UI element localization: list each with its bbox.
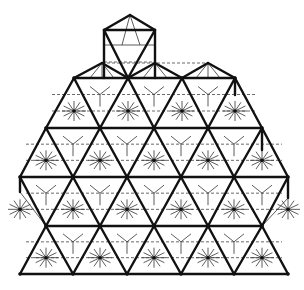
- lattice-node: [98, 224, 102, 228]
- lattice-node: [71, 175, 75, 179]
- edge: [117, 136, 127, 144]
- edge: [20, 177, 46, 226]
- edge: [46, 177, 73, 226]
- edge: [234, 177, 262, 226]
- lattice-node: [125, 175, 129, 179]
- edge: [100, 226, 127, 274]
- lattice-node: [125, 208, 129, 212]
- edge: [208, 177, 234, 226]
- edge: [144, 185, 154, 193]
- lattice-node: [125, 272, 129, 276]
- edge: [208, 128, 234, 177]
- edge: [46, 226, 73, 274]
- edge: [181, 226, 208, 274]
- lattice-node: [206, 224, 210, 228]
- edge: [154, 78, 182, 128]
- edge: [100, 185, 110, 193]
- edge: [234, 128, 262, 177]
- edge: [154, 87, 164, 95]
- edge: [74, 63, 102, 78]
- edge: [262, 185, 272, 193]
- edge: [262, 128, 288, 177]
- edge: [73, 177, 100, 226]
- edge: [198, 87, 208, 95]
- lattice-node: [18, 175, 22, 179]
- edge: [208, 87, 218, 95]
- lattice-node: [286, 175, 290, 179]
- lattice-node: [44, 126, 48, 130]
- edge: [127, 136, 137, 144]
- edge: [224, 234, 234, 242]
- edge: [208, 78, 235, 128]
- lattice-node: [18, 272, 22, 276]
- polyhedral-lattice-figure: [0, 0, 304, 290]
- edge: [100, 87, 110, 95]
- edge: [128, 78, 154, 128]
- edge: [224, 136, 234, 144]
- edge: [73, 226, 100, 274]
- edge: [73, 128, 100, 177]
- edge: [100, 177, 127, 226]
- edge: [127, 177, 154, 226]
- lattice-node: [260, 224, 264, 228]
- lattice-node: [44, 256, 48, 260]
- edge: [154, 128, 181, 177]
- lattice-node: [98, 126, 102, 130]
- edge: [74, 78, 100, 128]
- lattice-node: [179, 175, 183, 179]
- lattice-node: [206, 256, 210, 260]
- lattice-node: [98, 159, 102, 163]
- lattice-node: [72, 109, 76, 113]
- edge: [234, 226, 262, 274]
- edge: [100, 128, 127, 177]
- edge: [171, 136, 181, 144]
- lattice-node: [44, 224, 48, 228]
- lattice-node: [260, 126, 264, 130]
- edge: [63, 136, 73, 144]
- edge: [20, 128, 46, 177]
- edge: [117, 234, 127, 242]
- lattice-node: [126, 76, 130, 80]
- lattice-node: [232, 208, 236, 212]
- edge: [262, 226, 288, 274]
- lattice-node: [260, 159, 264, 163]
- edge: [154, 226, 181, 274]
- lattice-node: [260, 256, 264, 260]
- lattice-node: [180, 76, 184, 80]
- edge: [181, 136, 191, 144]
- edge: [208, 185, 218, 193]
- lattice-node: [44, 159, 48, 163]
- lattice-node: [232, 272, 236, 276]
- edge: [181, 234, 191, 242]
- edge: [208, 63, 235, 78]
- lattice-node: [179, 272, 183, 276]
- edge: [127, 226, 154, 274]
- edge: [154, 185, 164, 193]
- diagram-canvas: [0, 0, 304, 290]
- lattice-node: [72, 76, 76, 80]
- lattice-node: [232, 175, 236, 179]
- edge: [46, 128, 73, 177]
- lattice-node: [233, 76, 237, 80]
- edge: [20, 226, 46, 274]
- edge: [73, 136, 83, 144]
- edge: [144, 87, 154, 95]
- edge: [46, 78, 74, 128]
- lattice-node: [233, 109, 237, 113]
- edge: [104, 15, 130, 30]
- edge: [235, 78, 262, 128]
- edge: [234, 234, 244, 242]
- edge: [208, 226, 234, 274]
- edge: [63, 234, 73, 242]
- lattice-node: [71, 208, 75, 212]
- edge: [90, 87, 100, 95]
- edge: [181, 177, 208, 226]
- lattice-node: [206, 159, 210, 163]
- lattice-node: [152, 126, 156, 130]
- edge: [155, 63, 182, 78]
- lattice-node: [71, 272, 75, 276]
- edge: [73, 234, 83, 242]
- edge: [181, 128, 208, 177]
- edge: [182, 63, 208, 78]
- lattice-node: [180, 109, 184, 113]
